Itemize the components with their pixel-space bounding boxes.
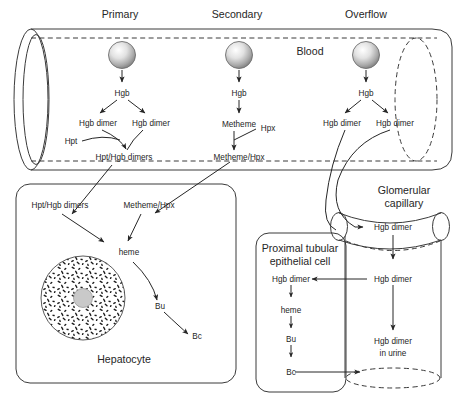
hepatocyte-bu-label: Bu: [155, 302, 165, 311]
primary-dimer-left-label: Hgb dimer: [79, 119, 117, 128]
primary-hpt-label: Hpt: [65, 137, 78, 146]
hepatocyte-bc-label: Bc: [192, 332, 202, 341]
secondary-metheme-label: Metheme: [222, 120, 257, 129]
proximal-cell-heme-label: heme: [281, 306, 302, 315]
proximal-cell-title-line2: epithelial cell: [270, 255, 331, 267]
primary-dimer-right-label: Hgb dimer: [132, 119, 170, 128]
hepatocyte-title: Hepatocyte: [97, 353, 151, 365]
arrows-primary: [82, 70, 145, 150]
diagram-canvas: Primary Secondary Overflow Blood Hgb Hgb…: [0, 0, 474, 401]
secondary-hgb-label: Hgb: [231, 89, 246, 98]
primary-hgb-label: Hgb: [114, 89, 129, 98]
glomerular-capillary-label-line2: capillary: [385, 197, 425, 209]
column-header-overflow: Overflow: [345, 8, 387, 20]
nucleus-shape: [41, 256, 125, 340]
hepatocyte-heme-label: heme: [119, 248, 140, 257]
overflow-dimer-left-label: Hgb dimer: [323, 119, 361, 128]
secondary-complex-label: Metheme/Hpx: [214, 153, 265, 162]
tubule-urine-label-line1: Hgb dimer: [374, 337, 412, 346]
rbc-sphere-overflow: [353, 42, 380, 69]
hepatocyte-input-left-label: Hpt/Hgb dimers: [32, 201, 89, 210]
blood-label: Blood: [296, 45, 323, 57]
hepatocyte-input-right-label: Metheme/Hpx: [124, 201, 175, 210]
column-header-secondary: Secondary: [212, 8, 263, 20]
overflow-to-capillary-connectors: [325, 130, 390, 230]
glomerular-capillary-label-line1: Glomerular: [378, 184, 431, 196]
tubule-urine-label-line2: in urine: [380, 349, 407, 358]
rbc-sphere-secondary: [226, 42, 253, 69]
column-header-primary: Primary: [102, 8, 139, 20]
tubule-dimer-label: Hgb dimer: [374, 275, 412, 284]
proximal-cell-title-line1: Proximal tubular: [262, 242, 339, 254]
proximal-cell-bc-label: Bc: [286, 368, 296, 377]
secondary-hpx-label: Hpx: [261, 124, 276, 133]
rbc-sphere-primary: [109, 42, 136, 69]
arrows-secondary: [234, 70, 256, 150]
pathway-diagram: Primary Secondary Overflow Blood Hgb Hgb…: [0, 0, 474, 401]
proximal-cell-dimer-label: Hgb dimer: [272, 275, 310, 284]
capillary-dimer-label: Hgb dimer: [374, 223, 412, 232]
overflow-hgb-label: Hgb: [358, 89, 373, 98]
overflow-dimer-right-label: Hgb dimer: [376, 119, 414, 128]
primary-complex-label: Hpt/Hgb dimers: [96, 153, 153, 162]
proximal-cell-bu-label: Bu: [286, 335, 296, 344]
